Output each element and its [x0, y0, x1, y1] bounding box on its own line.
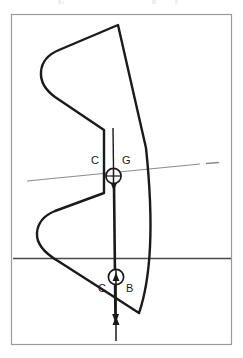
cg-label-c: C	[91, 154, 99, 166]
centre-of-gravity-marker	[106, 168, 121, 183]
centreline-upper	[113, 128, 114, 168]
inclined-waterline-dash	[206, 163, 219, 164]
cb-label-c: C	[98, 282, 106, 294]
ship-stability-diagram: C G C B	[0, 0, 243, 358]
figure-root: C G C B	[0, 0, 243, 358]
page-background	[0, 0, 243, 358]
cb-label-b: B	[126, 282, 133, 294]
cg-label-g: G	[122, 154, 131, 166]
